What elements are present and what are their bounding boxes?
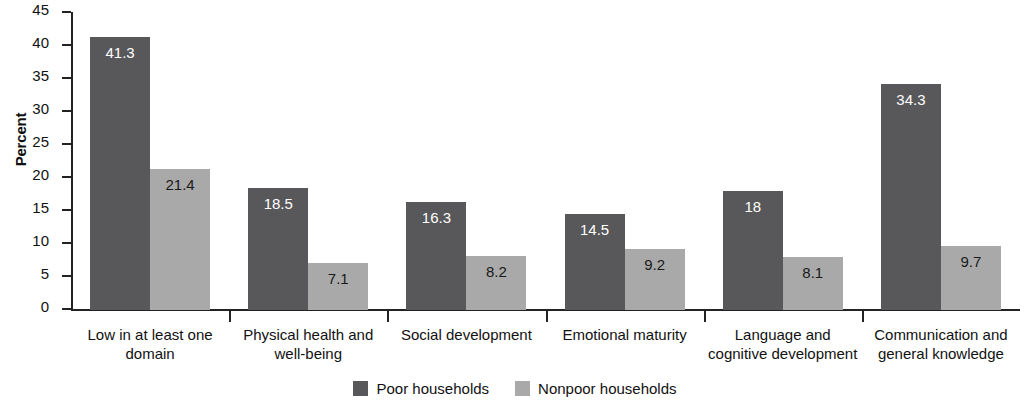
y-axis-tick-label: 40 xyxy=(15,34,49,52)
bar-value-label: 41.3 xyxy=(90,44,150,61)
x-axis-group-separator xyxy=(862,311,864,322)
bar-value-label: 21.4 xyxy=(150,176,210,193)
bar-nonpoor: 9.7 xyxy=(941,246,1001,310)
legend-swatch-nonpoor-icon xyxy=(515,381,530,396)
bar-nonpoor: 9.2 xyxy=(625,249,685,310)
bar-poor: 34.3 xyxy=(881,84,941,310)
bar-poor: 18 xyxy=(723,191,783,310)
plot-area: 454035302520151050 41.321.418.57.116.38.… xyxy=(71,13,1020,310)
y-axis-tick: 30 xyxy=(62,110,71,112)
y-axis-tick: 20 xyxy=(62,176,71,178)
y-axis-tick: 25 xyxy=(62,143,71,145)
bar-value-label: 8.2 xyxy=(466,263,526,280)
bar-poor: 16.3 xyxy=(406,202,466,310)
legend-label-poor: Poor households xyxy=(376,380,489,397)
bar-value-label: 9.2 xyxy=(625,256,685,273)
y-axis-tick: 0 xyxy=(62,308,71,310)
bar-value-label: 18 xyxy=(723,198,783,215)
bar-value-label: 34.3 xyxy=(881,91,941,108)
bar-value-label: 9.7 xyxy=(941,253,1001,270)
x-axis-category-label: Low in at least one domain xyxy=(71,325,229,363)
x-axis-group-separator xyxy=(704,311,706,322)
y-axis-tick-label: 35 xyxy=(15,67,49,85)
x-axis-category-label: Emotional maturity xyxy=(546,325,704,344)
y-axis-tick-label: 0 xyxy=(15,298,49,316)
x-axis-group-separator xyxy=(387,311,389,322)
y-axis-tick-label: 5 xyxy=(15,265,49,283)
chart-legend: Poor households Nonpoor households xyxy=(0,380,1030,397)
bar-value-label: 14.5 xyxy=(565,221,625,238)
y-axis-tick-label: 15 xyxy=(15,199,49,217)
legend-item-poor: Poor households xyxy=(353,380,489,397)
x-axis-category-label: Social development xyxy=(387,325,545,344)
x-axis-category-label: Language and cognitive development xyxy=(704,325,862,363)
bar-value-label: 8.1 xyxy=(783,264,843,281)
y-axis-tick: 45 xyxy=(62,11,71,13)
bar-nonpoor: 8.1 xyxy=(783,257,843,310)
x-axis-group-separator xyxy=(229,311,231,322)
bar-chart: Percent 454035302520151050 41.321.418.57… xyxy=(0,0,1030,405)
y-axis-tick: 40 xyxy=(62,44,71,46)
y-axis-tick-label: 45 xyxy=(15,1,49,19)
y-axis-tick: 15 xyxy=(62,209,71,211)
x-axis-category-label: Physical health and well-being xyxy=(229,325,387,363)
y-axis-tick-label: 25 xyxy=(15,133,49,151)
y-axis-tick-label: 30 xyxy=(15,100,49,118)
bar-value-label: 18.5 xyxy=(248,195,308,212)
legend-item-nonpoor: Nonpoor households xyxy=(515,380,676,397)
x-axis-group-separator xyxy=(546,311,548,322)
x-axis-category-label: Communication and general knowledge xyxy=(862,325,1020,363)
bar-poor: 14.5 xyxy=(565,214,625,310)
bar-nonpoor: 21.4 xyxy=(150,169,210,310)
y-axis-tick: 35 xyxy=(62,77,71,79)
bar-value-label: 7.1 xyxy=(308,270,368,287)
bar-value-label: 16.3 xyxy=(406,209,466,226)
bar-poor: 18.5 xyxy=(248,188,308,310)
legend-label-nonpoor: Nonpoor households xyxy=(538,380,676,397)
y-axis-tick: 5 xyxy=(62,275,71,277)
bar-nonpoor: 8.2 xyxy=(466,256,526,310)
y-axis-tick: 10 xyxy=(62,242,71,244)
legend-swatch-poor-icon xyxy=(353,381,368,396)
bar-poor: 41.3 xyxy=(90,37,150,310)
y-axis-tick-label: 10 xyxy=(15,232,49,250)
bar-nonpoor: 7.1 xyxy=(308,263,368,310)
y-axis-tick-label: 20 xyxy=(15,166,49,184)
